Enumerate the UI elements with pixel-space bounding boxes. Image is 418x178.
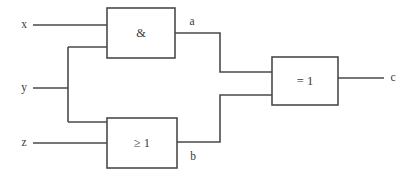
input-label-x: x bbox=[21, 18, 27, 30]
circuit-canvas: & ≥ 1 = 1 x y z a b c bbox=[0, 0, 418, 178]
wire-b-to-xor bbox=[177, 95, 272, 142]
input-label-z: z bbox=[21, 136, 26, 148]
xor-gate-label: = 1 bbox=[297, 74, 313, 88]
and-gate-label: & bbox=[136, 26, 146, 40]
output-label-c: c bbox=[390, 71, 395, 83]
signal-label-b: b bbox=[190, 150, 196, 162]
wire-a-to-xor bbox=[175, 33, 272, 72]
logic-circuit-diagram: & ≥ 1 = 1 x y z a b c bbox=[0, 0, 418, 178]
signal-label-a: a bbox=[189, 15, 194, 27]
input-label-y: y bbox=[21, 81, 27, 94]
or-gate-label: ≥ 1 bbox=[134, 136, 150, 150]
